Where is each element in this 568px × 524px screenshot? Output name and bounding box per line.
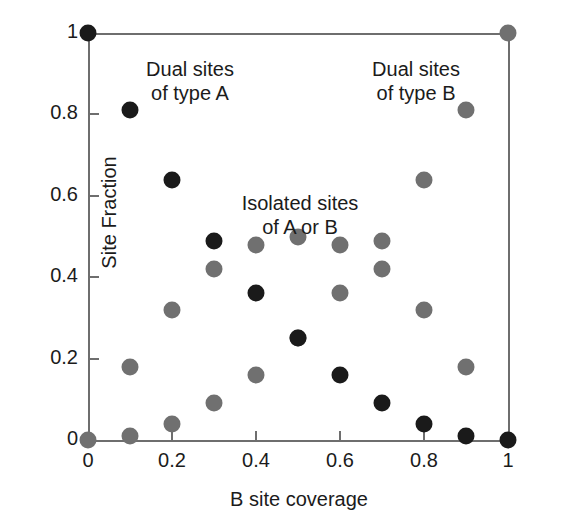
data-point [374,261,391,278]
data-point [416,415,433,432]
data-point [248,366,265,383]
data-point [122,358,139,375]
data-point [164,171,181,188]
data-point [164,415,181,432]
y-tick-label: 0.2 [6,346,78,369]
x-tick-mark [171,431,173,440]
annotation-isolated-sites: Isolated sites of A or B [210,191,390,240]
x-tick-label: 0.2 [132,449,212,472]
right-frame-line [508,33,510,442]
data-point [332,285,349,302]
data-point [500,432,517,449]
x-tick-mark [255,431,257,440]
data-point [458,427,475,444]
annotation-dual-sites-type-a: Dual sites of type A [110,57,270,106]
data-point [122,427,139,444]
x-tick-label: 0.8 [384,449,464,472]
y-tick-label: 0.6 [6,183,78,206]
data-point [80,432,97,449]
data-point [458,358,475,375]
y-tick-label: 0 [6,427,78,450]
x-tick-label: 0.6 [300,449,380,472]
y-tick-label: 0.4 [6,264,78,287]
x-tick-label: 1 [468,449,548,472]
x-axis-title: B site coverage [88,488,510,511]
y-tick-mark [90,113,99,115]
data-point [416,301,433,318]
data-point [80,25,97,42]
x-tick-mark [339,431,341,440]
top-frame-line [88,33,510,35]
y-tick-mark [90,358,99,360]
data-point [500,25,517,42]
x-axis-line [88,440,510,442]
y-tick-label: 0.8 [6,101,78,124]
data-point [416,171,433,188]
data-point [332,366,349,383]
x-tick-label: 0 [48,449,128,472]
plot-area: 00.20.40.60.81 00.20.40.60.81 Dual sites… [88,33,510,442]
scatter-plot-figure: 00.20.40.60.81 00.20.40.60.81 Dual sites… [0,0,568,524]
data-point [206,261,223,278]
y-axis-title: Site Fraction [98,128,121,298]
annotation-dual-sites-type-b: Dual sites of type B [336,57,496,106]
data-point [248,285,265,302]
data-point [290,330,307,347]
data-point [374,395,391,412]
y-tick-label: 1 [6,20,78,43]
x-tick-label: 0.4 [216,449,296,472]
x-tick-mark [423,431,425,440]
y-axis-line [88,33,90,442]
data-point [164,301,181,318]
data-point [206,395,223,412]
